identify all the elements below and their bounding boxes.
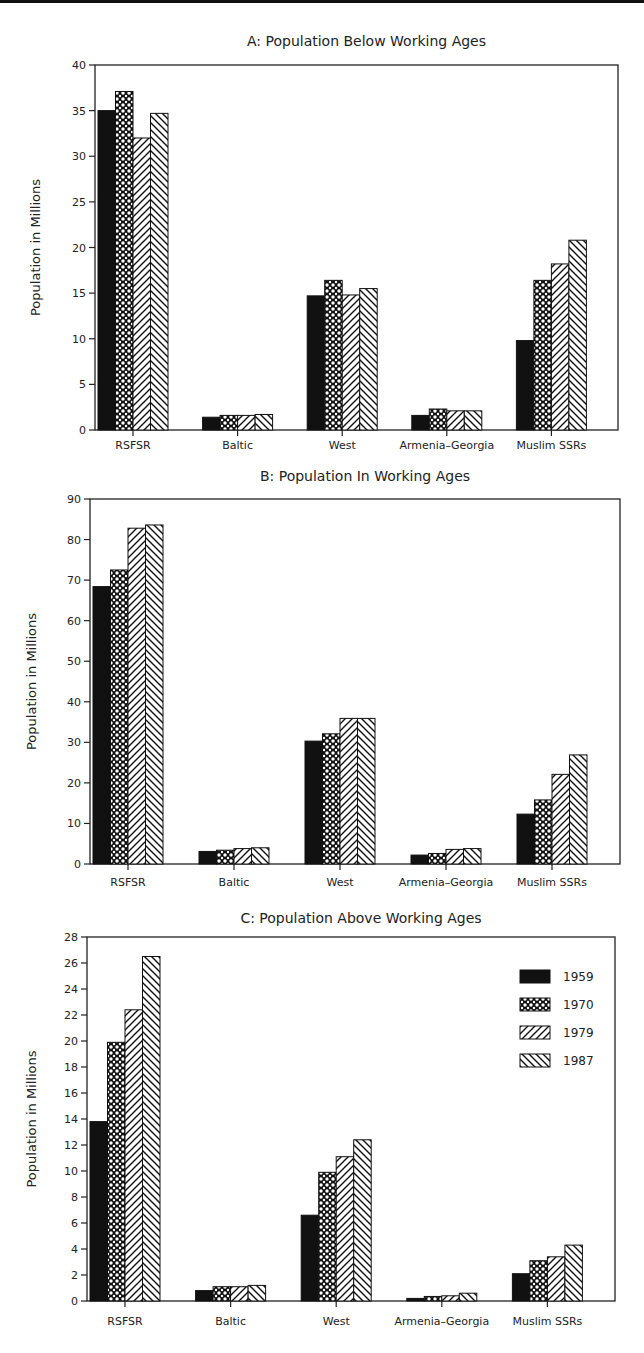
category-label: RSFSR [107,1315,143,1328]
bar-1987 [354,1140,372,1301]
y-tick-label: 6 [71,1217,78,1230]
y-tick-label: 12 [64,1139,78,1152]
bar-1987 [565,1245,583,1301]
legend: 1959197019791987 [520,970,594,1068]
bar-1959 [90,1122,108,1301]
category-label: West [323,1315,351,1328]
bar-1979 [336,1157,354,1301]
bar-1959 [407,1298,425,1301]
y-tick-label: 2 [71,1269,78,1282]
legend-label: 1970 [563,998,594,1012]
bar-1970 [319,1172,337,1301]
bar-1979 [442,1296,460,1301]
chart-title: C: Population Above Working Ages [240,910,481,926]
legend-label: 1987 [563,1054,594,1068]
category-label: Baltic [215,1315,246,1328]
y-tick-label: 14 [64,1113,78,1126]
legend-label: 1979 [563,1026,594,1040]
y-tick-label: 24 [64,983,78,996]
y-tick-label: 10 [64,1165,78,1178]
y-tick-label: 18 [64,1061,78,1074]
y-tick-label: 16 [64,1087,78,1100]
legend-swatch-1970 [520,998,550,1011]
bar-1959 [512,1274,530,1301]
category-label: Muslim SSRs [512,1315,582,1328]
bar-1987 [143,957,161,1302]
y-tick-label: 0 [71,1295,78,1308]
y-tick-label: 26 [64,957,78,970]
bar-1970 [108,1042,126,1301]
bar-1959 [196,1291,214,1301]
y-tick-label: 28 [64,931,78,944]
chart-c-above-working-ages: C: Population Above Working Ages02468101… [0,0,644,1353]
y-tick-label: 4 [71,1243,78,1256]
y-tick-label: 8 [71,1191,78,1204]
legend-label: 1959 [563,970,594,984]
bar-1970 [530,1261,548,1301]
legend-swatch-1987 [520,1054,550,1067]
bar-1987 [248,1285,266,1301]
y-tick-label: 20 [64,1035,78,1048]
y-tick-label: 22 [64,1009,78,1022]
bar-1970 [424,1296,442,1301]
bar-1987 [459,1293,477,1301]
legend-swatch-1979 [520,1026,550,1039]
bar-1979 [125,1010,143,1301]
bar-1979 [547,1257,565,1301]
legend-swatch-1959 [520,970,550,983]
chart-2: C: Population Above Working Ages02468101… [24,910,615,1328]
bar-1959 [301,1215,319,1301]
y-axis-label: Population in Millions [24,1050,39,1187]
category-label: Armenia–Georgia [394,1315,489,1328]
bar-1970 [213,1287,231,1301]
bar-1979 [231,1287,249,1301]
